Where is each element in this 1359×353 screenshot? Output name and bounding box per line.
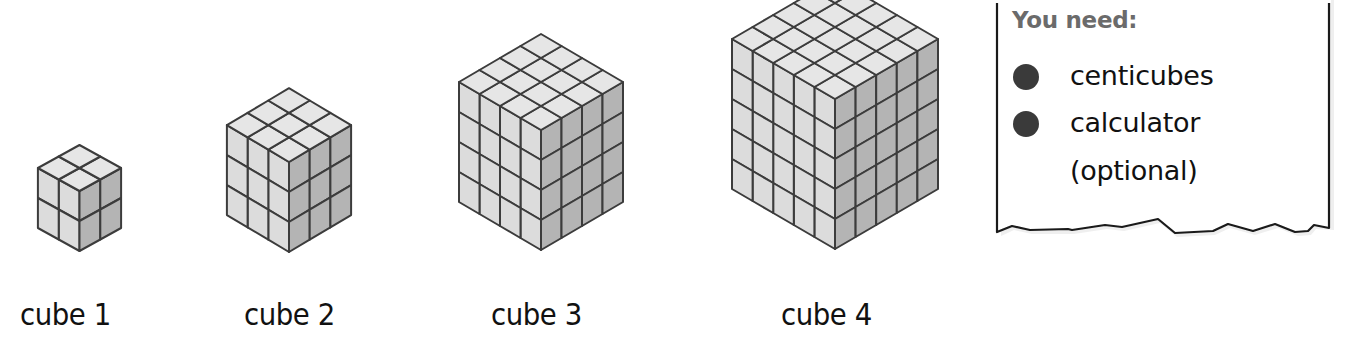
bullet-icon — [1013, 111, 1039, 137]
notepad-item-centicubes: centicubes — [1070, 60, 1213, 91]
cube-4-label: cube 4 — [781, 297, 872, 332]
bullet-icon — [1013, 64, 1039, 90]
cube-1-label: cube 1 — [20, 297, 111, 332]
cube-3-label: cube 3 — [491, 297, 582, 332]
cube-3-drawing — [459, 34, 623, 250]
cube-1-drawing — [38, 145, 121, 251]
cube-2-label: cube 2 — [244, 297, 335, 332]
cube-4-drawing — [732, 0, 938, 249]
cube-2-drawing — [227, 88, 351, 252]
notepad-item-optional: (optional) — [1070, 155, 1198, 186]
notepad-heading: You need: — [1012, 7, 1137, 33]
notepad-item-calculator: calculator — [1070, 107, 1200, 138]
